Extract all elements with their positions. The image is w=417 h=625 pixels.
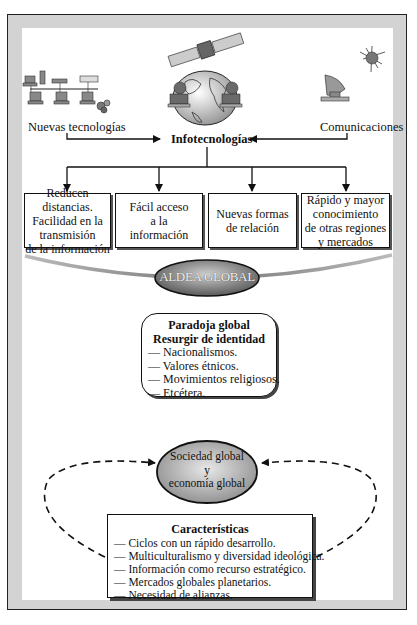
effect-line: Rápido y mayor — [305, 193, 386, 207]
sociedad-line: y — [157, 464, 257, 478]
computer-network-icon — [23, 71, 110, 113]
effect-line: Fácil acceso — [130, 200, 189, 214]
caracteristicas-title: Características — [108, 523, 312, 536]
effect-line: Facilidad en la — [25, 214, 110, 228]
satellite-dish-icon — [321, 46, 385, 101]
sociedad-line: Sociedad global — [157, 450, 257, 464]
sociedad-global-text: Sociedad global y economía global — [157, 450, 257, 491]
paradoja-global-box: Paradoja global Resurgir de identidad — … — [141, 313, 277, 397]
effect-box-conocimiento: Rápido y mayor conocimiento de otras reg… — [301, 193, 390, 248]
aldea-global-label: ALDEA GLOBAL — [157, 270, 257, 284]
effect-line: conocimiento — [305, 207, 386, 221]
effect-box-distancias: Reducen distancias. Facilidad en la tran… — [24, 193, 111, 248]
effect-box-relacion: Nuevas formas de relación — [208, 193, 297, 248]
caracteristicas-item: — Multiculturalismo y diversidad ideológ… — [108, 550, 312, 563]
paradoja-item: — Movimientos religiosos. — [142, 373, 276, 387]
effect-line: de otras regiones — [305, 221, 386, 235]
effect-line: información — [130, 228, 189, 242]
effect-line: Reducen distancias. — [25, 186, 110, 214]
paradoja-item: — Valores étnicos. — [142, 360, 276, 374]
caracteristicas-item: — Necesidad de alianzas. — [108, 589, 312, 602]
comunicaciones-label: Comunicaciones — [320, 120, 403, 134]
paradoja-title: Paradoja global — [142, 319, 276, 333]
effect-line: de relación — [216, 221, 288, 235]
caracteristicas-item: — Mercados globales planetarios. — [108, 576, 312, 589]
effect-line: Nuevas formas — [216, 207, 288, 221]
caracteristicas-box: Características — Ciclos con un rápido d… — [107, 514, 313, 598]
paradoja-item: — Etcétera. — [142, 387, 276, 401]
caracteristicas-item: — Información como recurso estratégico. — [108, 563, 312, 576]
effect-box-acceso: Fácil acceso a la información — [115, 193, 203, 248]
effect-line: transmisión — [25, 228, 110, 242]
satellite-globe-icon — [167, 31, 244, 125]
infotecnologias-label: Infotecnologías — [171, 132, 252, 146]
caracteristicas-item: — Ciclos con un rápido desarrollo. — [108, 537, 312, 550]
paradoja-subtitle: Resurgir de identidad — [142, 333, 276, 347]
nuevas-tecnologias-label: Nuevas tecnologías — [28, 120, 126, 134]
effect-line: a la — [130, 214, 189, 228]
paradoja-item: — Nacionalismos. — [142, 346, 276, 360]
effect-line: y mercados — [305, 235, 386, 249]
effect-line: de la información — [25, 242, 110, 256]
sociedad-line: economía global — [157, 477, 257, 491]
